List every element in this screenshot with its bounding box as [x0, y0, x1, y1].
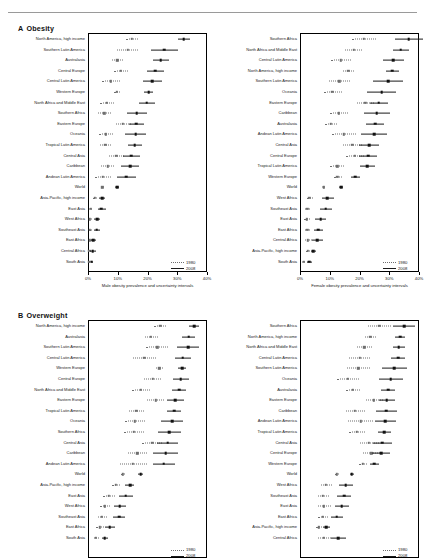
legend-swatch-1980-icon [383, 262, 396, 263]
point-2008 [324, 207, 327, 210]
point-2008 [319, 218, 322, 221]
x-axis-caption: Female obesity prevalence and uncertaint… [311, 283, 408, 288]
point-1980 [322, 186, 324, 188]
point-2008 [392, 59, 395, 62]
x-tick [389, 272, 390, 274]
row-label: Central Asia [0, 143, 297, 147]
row-label: Oceania [0, 377, 297, 381]
x-tick [300, 272, 301, 274]
x-tick-label: 40% [415, 276, 423, 281]
row-label: Oceania [0, 90, 297, 94]
x-tick-label: 30% [173, 276, 181, 281]
panel-letter-b: B [18, 311, 23, 320]
point-1980 [318, 526, 320, 528]
point-2008 [343, 494, 346, 497]
point-2008 [325, 526, 328, 529]
panel-title-b: BOverweight [18, 311, 68, 320]
point-1980 [369, 335, 371, 337]
point-1980 [362, 463, 364, 465]
row-label: Central Africa [0, 536, 297, 540]
point-2008 [380, 452, 383, 455]
x-tick [88, 272, 89, 274]
top-rule [8, 12, 417, 13]
row-label: Australasia [0, 122, 297, 126]
point-1980 [364, 101, 366, 103]
point-2008 [374, 123, 377, 126]
row-label: Andean Latin America [0, 132, 297, 136]
x-tick [148, 272, 149, 274]
legend-swatch-2008-icon [383, 268, 396, 269]
point-1980 [302, 260, 304, 262]
point-2008 [400, 48, 403, 51]
x-axis-caption: Male obesity prevalence and uncertainty … [102, 283, 194, 288]
row-label: Tropical Latin America [0, 164, 297, 168]
point-2008 [308, 260, 311, 263]
x-tick [207, 272, 208, 274]
point-1980 [356, 431, 358, 433]
panel-label-b: Overweight [26, 311, 67, 320]
legend-label-1980: 1980 [398, 547, 407, 552]
x-tick-label: 40% [203, 276, 211, 281]
point-1980 [357, 367, 359, 369]
legend-swatch-1980-icon [171, 550, 184, 551]
row-label: Eastern Europe [0, 101, 297, 105]
point-2008 [340, 186, 343, 189]
point-1980 [343, 133, 345, 135]
point-2008 [408, 38, 411, 41]
row-label: Southern Latin America [0, 79, 297, 83]
row-label: Southeast Asia [0, 207, 297, 211]
legend-label-2008: 2008 [398, 266, 407, 271]
point-2008 [367, 154, 370, 157]
row-label: Central Latin America [0, 58, 297, 62]
point-2008 [387, 388, 390, 391]
point-2008 [391, 70, 394, 73]
legend-swatch-2008-icon [383, 556, 396, 557]
point-1980 [354, 410, 356, 412]
point-2008 [381, 441, 384, 444]
point-1980 [362, 38, 364, 40]
row-label: Western Europe [0, 462, 297, 466]
row-label: Andean Latin America [0, 419, 297, 423]
point-2008 [336, 516, 339, 519]
row-label: Tropical Latin America [0, 430, 297, 434]
point-1980 [329, 123, 331, 125]
point-1980 [378, 325, 380, 327]
plot-area [300, 33, 419, 272]
point-2008 [350, 473, 353, 476]
row-label: North America, high income [0, 335, 297, 339]
point-1980 [306, 218, 308, 220]
legend-label-1980: 1980 [186, 547, 195, 552]
point-2008 [386, 399, 389, 402]
point-2008 [326, 197, 329, 200]
x-tick [330, 272, 331, 274]
row-label: Central Europe [0, 451, 297, 455]
point-1980 [347, 378, 349, 380]
point-2008 [317, 229, 320, 232]
x-tick [360, 272, 361, 274]
row-label: Central Africa [0, 238, 297, 242]
point-1980 [325, 484, 327, 486]
x-tick-label: 0% [297, 276, 303, 281]
row-label: World [0, 185, 297, 189]
point-2008 [384, 420, 387, 423]
legend-label-1980: 1980 [398, 260, 407, 265]
row-label: World [0, 472, 297, 476]
row-label: North Africa and Middle East [0, 345, 297, 349]
legend-swatch-2008-icon [171, 556, 184, 557]
row-label: North Africa and Middle East [0, 48, 297, 52]
row-label: Southern Africa [0, 324, 297, 328]
point-1980 [336, 165, 338, 167]
row-label: Eastern Europe [0, 398, 297, 402]
point-1980 [363, 346, 365, 348]
point-2008 [354, 176, 357, 179]
point-2008 [389, 378, 392, 381]
x-tick [419, 272, 420, 274]
row-label: Central Latin America [0, 356, 297, 360]
point-2008 [383, 431, 386, 434]
point-2008 [393, 367, 396, 370]
point-2008 [337, 537, 340, 540]
point-2008 [368, 144, 371, 147]
row-label: Asia-Pacific, high income [0, 525, 297, 529]
x-tick-label: 10% [114, 276, 122, 281]
point-1980 [336, 473, 338, 475]
